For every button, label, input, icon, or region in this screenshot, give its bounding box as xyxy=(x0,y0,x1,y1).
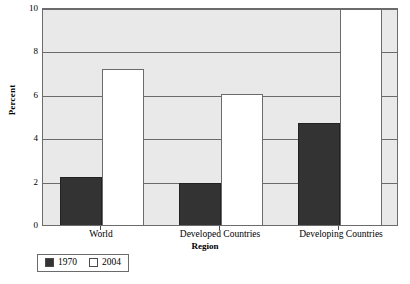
y-tick-label: 4 xyxy=(8,134,38,143)
legend-label: 2004 xyxy=(102,258,121,268)
y-tick-label: 8 xyxy=(8,47,38,56)
x-axis-title: Region xyxy=(0,241,410,251)
y-tick-label: 2 xyxy=(8,178,38,187)
y-tick-label: 6 xyxy=(8,91,38,100)
x-category-label-world: World xyxy=(61,229,141,239)
bar-world-1970 xyxy=(60,177,102,226)
bar-developed-countries-1970 xyxy=(179,183,221,226)
bar-developing-countries-1970 xyxy=(298,123,340,226)
legend-swatch-icon xyxy=(89,258,98,267)
legend-label: 1970 xyxy=(58,258,77,268)
y-tick-label: 10 xyxy=(8,4,38,13)
plot-area xyxy=(42,8,398,226)
bar-developed-countries-2004 xyxy=(221,94,263,226)
x-category-label-developed: Developed Countries xyxy=(160,229,280,239)
bar-developing-countries-2004 xyxy=(340,9,382,226)
y-tick-label: 0 xyxy=(8,221,38,230)
bar-chart: Percent 10 8 6 4 2 0 World Developed Cou… xyxy=(0,0,410,284)
x-category-label-developing: Developing Countries xyxy=(280,229,402,239)
legend-item-1970: 1970 xyxy=(45,258,77,268)
legend: 1970 2004 xyxy=(37,254,129,272)
legend-swatch-icon xyxy=(45,258,54,267)
legend-item-2004: 2004 xyxy=(89,258,121,268)
bar-world-2004 xyxy=(102,69,144,226)
